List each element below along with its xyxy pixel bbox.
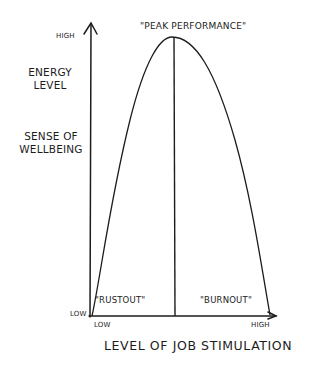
performance-curve bbox=[92, 37, 270, 316]
y-axis-subtitle: Sense of Wellbeing bbox=[16, 130, 86, 156]
x-axis-title: Level of Job Stimulation bbox=[104, 340, 292, 353]
y-axis-subtitle-line2: Wellbeing bbox=[16, 143, 86, 156]
peak-performance-label: "Peak Performance" bbox=[140, 22, 246, 31]
y-axis-title-line1: Energy bbox=[18, 66, 82, 79]
y-axis-high-label: High bbox=[56, 33, 75, 40]
y-axis-title: Energy Level bbox=[18, 66, 82, 92]
burnout-label: "Burnout" bbox=[200, 296, 252, 305]
y-axis-title-line2: Level bbox=[18, 79, 82, 92]
y-axis bbox=[84, 23, 97, 317]
x-axis-high-label: High bbox=[251, 322, 270, 329]
rustout-label: "Rustout" bbox=[95, 296, 145, 305]
y-axis-subtitle-line1: Sense of bbox=[16, 130, 86, 143]
y-axis-low-label: Low bbox=[70, 311, 87, 318]
peak-divider-line bbox=[174, 37, 175, 316]
x-axis bbox=[89, 312, 276, 319]
x-axis-low-label: Low bbox=[94, 322, 111, 329]
